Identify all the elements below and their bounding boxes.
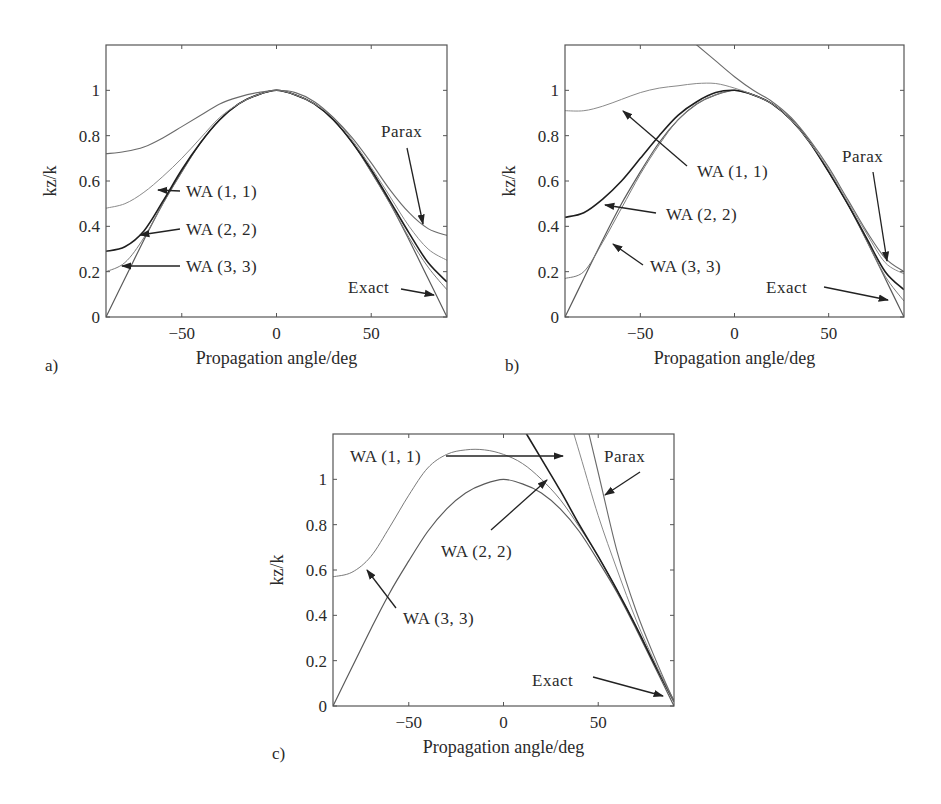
- curve-parax: [570, 354, 674, 702]
- x-tick-label: −50: [395, 713, 422, 732]
- annotation-arrow-icon: [491, 480, 547, 530]
- annotation-arrow-icon: [605, 472, 640, 495]
- annotation-exact: Exact: [532, 671, 573, 690]
- chart-svg-c: 00.20.40.60.81−50050Propagation angle/de…: [0, 0, 941, 804]
- plot-area: [333, 354, 674, 707]
- y-tick-label: 0.6: [306, 561, 327, 580]
- y-tick-label: 0.2: [306, 652, 327, 671]
- x-axis-label: Propagation angle/deg: [423, 737, 584, 757]
- y-tick-label: 0.8: [306, 516, 327, 535]
- annotation-wa-2-2: WA (2, 2): [441, 542, 512, 561]
- panel-c: 00.20.40.60.81−50050Propagation angle/de…: [0, 0, 941, 804]
- curve-wa-3-3: [333, 449, 674, 701]
- y-tick-label: 0: [319, 697, 328, 716]
- annotation-wa-3-3: WA (3, 3): [403, 609, 474, 628]
- y-axis-label: kz/k: [267, 555, 287, 586]
- panel-label-c: c): [272, 744, 285, 764]
- x-tick-label: 50: [590, 713, 607, 732]
- curve-wa-1-1: [551, 357, 674, 702]
- annotation-wa-1-1: WA (1, 1): [350, 447, 421, 466]
- annotation-arrow-icon: [593, 677, 663, 696]
- annotation-parax: Parax: [604, 447, 645, 466]
- y-tick-label: 0.4: [306, 606, 328, 625]
- x-tick-label: 0: [499, 713, 508, 732]
- y-tick-label: 1: [319, 470, 328, 489]
